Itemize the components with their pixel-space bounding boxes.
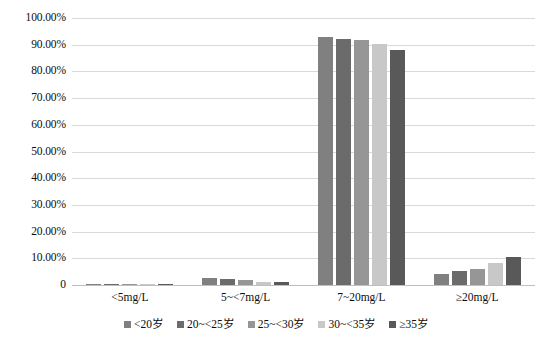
legend: <20岁20~<25岁25~<30岁30~<35岁≥35岁	[0, 318, 552, 331]
bar-chart: 100.00%90.00%80.00%70.00%60.00%50.00%40.…	[0, 0, 552, 357]
legend-item-label: 25~<30岁	[258, 318, 305, 331]
legend-item[interactable]: ≥35岁	[389, 318, 428, 331]
y-axis-tick-label: 80.00%	[0, 65, 66, 77]
bar[interactable]	[122, 284, 137, 285]
y-axis-tick-label: 20.00%	[0, 226, 66, 238]
bar[interactable]	[372, 44, 387, 285]
legend-item[interactable]: 20~<25岁	[177, 318, 234, 331]
bar[interactable]	[256, 282, 271, 285]
x-axis: <5mg/L5~<7mg/L7~20mg/L≥20mg/L	[72, 291, 535, 304]
legend-item[interactable]: 30~<35岁	[318, 318, 375, 331]
bar[interactable]	[158, 284, 173, 285]
legend-item[interactable]: 25~<30岁	[248, 318, 305, 331]
legend-item-label: 30~<35岁	[328, 318, 375, 331]
y-axis-tick-label: 30.00%	[0, 199, 66, 211]
legend-item-label: 20~<25岁	[187, 318, 234, 331]
bar-groups	[72, 18, 535, 285]
y-axis-tick-label: 100.00%	[0, 12, 66, 24]
x-axis-tick-label: ≥20mg/L	[419, 291, 535, 304]
bar[interactable]	[140, 284, 155, 285]
legend-swatch-icon	[177, 321, 184, 328]
x-axis-tick-label: 7~20mg/L	[304, 291, 420, 304]
legend-swatch-icon	[318, 321, 325, 328]
legend-item-label: ≥35岁	[399, 318, 428, 331]
legend-item[interactable]: <20岁	[124, 318, 163, 331]
gridline	[72, 285, 535, 286]
bar-group	[419, 18, 535, 285]
y-axis-tick-label: 70.00%	[0, 92, 66, 104]
bar[interactable]	[506, 257, 521, 285]
x-axis-tick-label: <5mg/L	[72, 291, 188, 304]
plot-area	[72, 18, 535, 285]
bar[interactable]	[488, 263, 503, 285]
bar[interactable]	[202, 278, 217, 285]
bar[interactable]	[452, 271, 467, 285]
bar-group	[304, 18, 420, 285]
y-axis-tick-label: 60.00%	[0, 119, 66, 131]
y-axis-tick-label: 90.00%	[0, 39, 66, 51]
bar[interactable]	[274, 282, 289, 285]
y-axis-tick-label: 0	[0, 279, 66, 291]
bar[interactable]	[390, 50, 405, 285]
bar[interactable]	[318, 37, 333, 285]
legend-item-label: <20岁	[134, 318, 163, 331]
bar[interactable]	[354, 40, 369, 285]
bar-group	[188, 18, 304, 285]
legend-swatch-icon	[389, 321, 396, 328]
x-axis-tick-label: 5~<7mg/L	[188, 291, 304, 304]
bar[interactable]	[336, 39, 351, 285]
y-axis-tick-label: 10.00%	[0, 252, 66, 264]
bar[interactable]	[470, 269, 485, 285]
bar[interactable]	[434, 274, 449, 285]
y-axis: 100.00%90.00%80.00%70.00%60.00%50.00%40.…	[0, 0, 66, 357]
bar[interactable]	[220, 279, 235, 285]
y-axis-tick-label: 50.00%	[0, 146, 66, 158]
bar[interactable]	[238, 280, 253, 285]
legend-swatch-icon	[124, 321, 131, 328]
bar[interactable]	[104, 284, 119, 285]
bar[interactable]	[86, 284, 101, 285]
bar-group	[72, 18, 188, 285]
legend-swatch-icon	[248, 321, 255, 328]
y-axis-tick-label: 40.00%	[0, 172, 66, 184]
